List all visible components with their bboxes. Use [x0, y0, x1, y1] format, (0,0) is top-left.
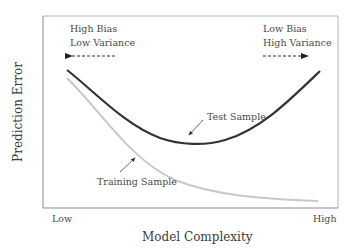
x-axis-title: Model Complexity [142, 231, 253, 243]
x-tick-high: High [313, 214, 337, 224]
test-sample-pointer [189, 120, 203, 135]
annotation-low-variance: Low Variance [70, 38, 135, 48]
annotation-high-bias: High Bias [70, 24, 117, 34]
label-training-sample: Training Sample [97, 177, 177, 187]
y-axis-title: Prediction Error [11, 62, 25, 162]
x-tick-low: Low [52, 214, 72, 224]
test-sample-curve [67, 70, 320, 144]
label-test-sample: Test Sample [207, 112, 266, 122]
annotation-high-variance: High Variance [263, 38, 332, 48]
annotation-low-bias: Low Bias [263, 24, 307, 34]
training-sample-pointer [120, 158, 135, 172]
